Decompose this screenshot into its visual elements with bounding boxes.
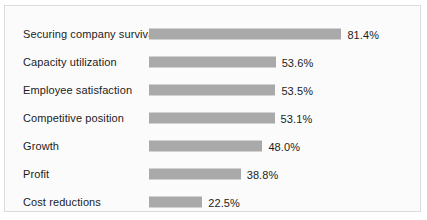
table-row: Competitive position 53.1% xyxy=(5,107,420,129)
bar-value-label: 22.5% xyxy=(208,196,240,208)
bar-track: 53.1% xyxy=(149,113,414,124)
bar-track: 38.8% xyxy=(149,169,414,180)
bar-value-label: 53.1% xyxy=(281,112,313,124)
table-row: Growth 48.0% xyxy=(5,135,420,157)
bar-value-label: 48.0% xyxy=(268,140,300,152)
bar-value-label: 53.5% xyxy=(281,84,313,96)
table-row: Employee satisfaction 53.5% xyxy=(5,79,420,101)
bar-category-label: Competitive position xyxy=(23,112,124,124)
bar-track: 81.4% xyxy=(149,29,414,40)
bar-track: 22.5% xyxy=(149,197,414,208)
bar-fill xyxy=(149,113,275,124)
bar-track: 53.5% xyxy=(149,85,414,96)
table-row: Capacity utilization 53.6% xyxy=(5,51,420,73)
bar-fill xyxy=(149,169,241,180)
chart-panel: Securing company survival 81.4% Capacity… xyxy=(4,5,421,212)
bar-value-label: 81.4% xyxy=(347,28,379,40)
bar-fill xyxy=(149,197,202,208)
bar-category-label: Growth xyxy=(23,140,59,152)
bar-value-label: 38.8% xyxy=(247,168,279,180)
bar-category-label: Securing company survival xyxy=(23,28,157,40)
bar-category-label: Cost reductions xyxy=(23,196,101,208)
bar-track: 53.6% xyxy=(149,57,414,68)
bar-category-label: Employee satisfaction xyxy=(23,84,132,96)
bar-category-label: Profit xyxy=(23,168,49,180)
bar-fill xyxy=(149,57,276,68)
bar-value-label: 53.6% xyxy=(282,56,314,68)
horizontal-bar-chart-plot-area: Securing company survival 81.4% Capacity… xyxy=(5,6,420,211)
table-row: Profit 38.8% xyxy=(5,163,420,185)
bar-fill xyxy=(149,85,275,96)
bar-fill xyxy=(149,29,341,40)
table-row: Securing company survival 81.4% xyxy=(5,23,420,45)
bar-track: 48.0% xyxy=(149,141,414,152)
bar-fill xyxy=(149,141,262,152)
table-row: Cost reductions 22.5% xyxy=(5,191,420,213)
bar-category-label: Capacity utilization xyxy=(23,56,117,68)
